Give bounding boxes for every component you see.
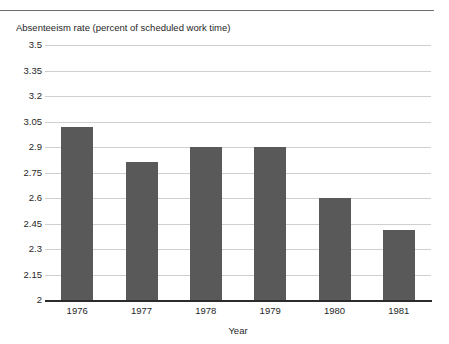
gridline (45, 71, 431, 72)
x-axis-tick-label: 1978 (174, 305, 238, 317)
x-axis-tick-label: 1980 (302, 305, 366, 317)
x-axis-tick-label: 1979 (238, 305, 302, 317)
gridline (45, 249, 431, 250)
y-axis-tick-label: 3.2 (0, 91, 42, 101)
gridline (45, 147, 431, 148)
bar-1981 (383, 230, 415, 300)
x-axis-tick-label: 1981 (367, 305, 431, 317)
y-axis-tick-label: 2 (0, 295, 42, 305)
y-axis-tick-label: 3.35 (0, 66, 42, 76)
header-divider-rule (0, 10, 434, 11)
x-axis-tick-label: 1977 (109, 305, 173, 317)
y-axis-tick-label: 2.9 (0, 142, 42, 152)
gridline (45, 173, 431, 174)
x-axis-line (45, 300, 432, 302)
bar-1978 (190, 147, 222, 300)
bar-1979 (254, 147, 286, 300)
gridline (45, 198, 431, 199)
y-axis-tick-label: 2.75 (0, 168, 42, 178)
gridline (45, 96, 431, 97)
y-axis-tick-label: 2.6 (0, 193, 42, 203)
y-axis-tick-labels: 22.152.32.452.62.752.93.053.23.353.5 (0, 0, 42, 344)
y-axis-tick-label: 2.15 (0, 270, 42, 280)
gridline (45, 275, 431, 276)
gridline (45, 224, 431, 225)
plot-area (45, 45, 431, 300)
bar-1980 (319, 198, 351, 300)
bar-1977 (126, 162, 158, 300)
bar-1976 (61, 127, 93, 300)
y-axis-tick-label: 2.45 (0, 219, 42, 229)
absenteeism-bar-chart-figure: Absenteeism rate (percent of scheduled w… (0, 0, 449, 344)
gridline (45, 45, 431, 46)
gridline (45, 122, 431, 123)
y-axis-tick-label: 2.3 (0, 244, 42, 254)
x-axis-title: Year (45, 325, 431, 337)
chart-caption: Absenteeism rate (percent of scheduled w… (16, 22, 230, 34)
y-axis-tick-label: 3.05 (0, 117, 42, 127)
x-axis-tick-label: 1976 (45, 305, 109, 317)
y-axis-tick-label: 3.5 (0, 40, 42, 50)
